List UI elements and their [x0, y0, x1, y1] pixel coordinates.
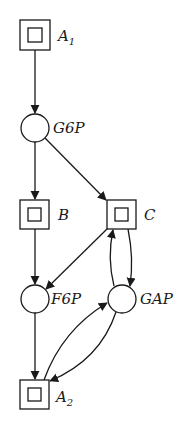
transition-b: [20, 200, 49, 229]
label-gap: GAP: [140, 290, 174, 308]
label-a1: A1: [56, 27, 75, 47]
edge-g6p-c: [45, 138, 106, 200]
label-a2: A2: [54, 388, 73, 408]
edge-c-f6p: [46, 229, 107, 289]
place-gap: [108, 285, 136, 313]
place-g6p: [21, 114, 49, 142]
edge-gap-c: [110, 230, 114, 286]
label-f6p: F6P: [50, 290, 82, 308]
transition-a2: [20, 380, 49, 409]
petri-net-diagram: A1 G6P B C F6P GAP A2: [0, 0, 192, 427]
label-g6p: G6P: [53, 119, 86, 137]
edge-c-gap: [128, 229, 132, 286]
edge-a2-gap: [44, 303, 107, 380]
transition-c: [107, 200, 136, 229]
edge-gap-a2: [50, 312, 116, 381]
label-c: C: [144, 206, 156, 224]
label-b: B: [57, 206, 69, 224]
transition-a1: [20, 20, 50, 50]
place-f6p: [21, 285, 49, 313]
